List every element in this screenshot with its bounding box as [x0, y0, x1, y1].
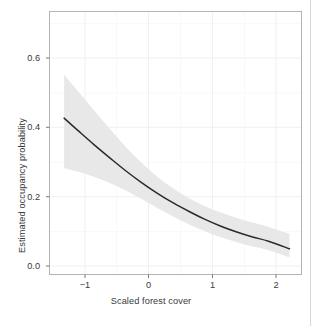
y-axis-title: Estimated occupancy probability	[17, 118, 27, 253]
x-tick-label-2: 1	[201, 280, 225, 290]
y-tick-label-0: 0.0	[10, 261, 40, 271]
figure-canvas: 0.0 0.2 0.4 0.6 −1 0 1 2 Scaled forest c…	[0, 0, 318, 326]
y-tick-label-3: 0.6	[10, 53, 40, 63]
occupancy-probability-chart	[0, 0, 318, 326]
x-tick-label-3: 2	[264, 280, 288, 290]
x-axis-title: Scaled forest cover	[0, 296, 302, 306]
y-axis-ticks	[46, 58, 50, 266]
x-tick-label-1: 0	[137, 280, 161, 290]
x-tick-label-0: −1	[73, 280, 97, 290]
x-axis-ticks	[85, 275, 276, 279]
